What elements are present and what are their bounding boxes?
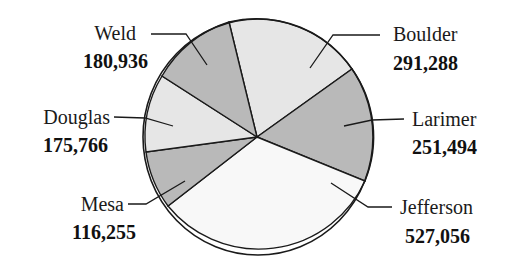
label-larimer-value: 251,494 (412, 136, 477, 158)
label-mesa-value: 116,255 (72, 221, 136, 243)
label-boulder-name: Boulder (393, 23, 458, 45)
label-douglas-name: Douglas (43, 106, 110, 129)
label-larimer-name: Larimer (412, 108, 477, 130)
pie-slices (143, 19, 374, 255)
label-boulder-value: 291,288 (393, 52, 458, 74)
label-jefferson-value: 527,056 (405, 225, 470, 247)
label-douglas-value: 175,766 (43, 134, 108, 156)
pie-chart: Weld 180,936 Boulder 291,288 Douglas 175… (0, 0, 508, 269)
label-weld-name: Weld (94, 22, 136, 44)
label-weld-value: 180,936 (83, 50, 148, 72)
label-jefferson-name: Jefferson (400, 196, 473, 218)
label-mesa-name: Mesa (81, 193, 124, 215)
